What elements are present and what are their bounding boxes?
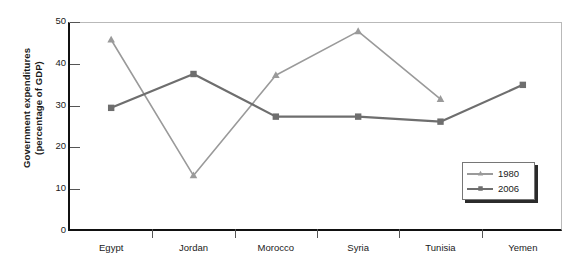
y-axis-title-line-1: Government expenditures	[21, 48, 33, 168]
y-tick-label: 40	[55, 57, 66, 68]
chart-container: Government expenditures (percentage of G…	[0, 0, 573, 260]
y-tick-label: 0	[61, 224, 66, 235]
series-line-2006	[111, 74, 523, 122]
legend-label-1980: 1980	[498, 168, 519, 179]
chart-legend: 1980 2006	[462, 162, 535, 200]
data-point-1980	[107, 36, 115, 43]
data-point-2006	[273, 113, 279, 119]
y-tick-label: 50	[55, 15, 66, 26]
series-group	[107, 27, 526, 178]
x-axis-label-yemen: Yemen	[508, 242, 537, 253]
legend-marker-2006-icon	[467, 183, 493, 194]
data-point-2006	[355, 113, 361, 119]
data-point-2006	[437, 118, 443, 124]
y-axis-title-line-2: (percentage of GDP)	[33, 61, 45, 155]
x-axis-label-egypt: Egypt	[99, 242, 123, 253]
y-tick-label: 30	[55, 99, 66, 110]
x-axis-label-morocco: Morocco	[258, 242, 294, 253]
y-tick-label: 10	[55, 182, 66, 193]
data-point-2006	[190, 71, 196, 77]
legend-label-2006: 2006	[498, 183, 519, 194]
data-point-2006	[520, 82, 526, 88]
x-axis-label-syria: Syria	[347, 242, 369, 253]
data-point-1980	[354, 27, 362, 34]
x-axis-label-jordan: Jordan	[179, 242, 208, 253]
y-tick-label: 20	[55, 140, 66, 151]
legend-item-1980[interactable]: 1980	[467, 166, 530, 181]
x-axis-label-tunisia: Tunisia	[425, 242, 455, 253]
series-plot-layer	[70, 23, 564, 232]
legend-marker-1980-icon	[467, 168, 493, 179]
data-point-2006	[108, 105, 114, 111]
legend-item-2006[interactable]: 2006	[467, 181, 530, 196]
y-axis-title: Government expenditures (percentage of G…	[19, 13, 47, 203]
series-line-1980	[111, 31, 440, 175]
